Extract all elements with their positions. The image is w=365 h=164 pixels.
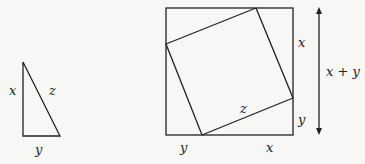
square-label-inner-z: z	[240, 102, 247, 115]
square-label-bottom-y: y	[180, 141, 187, 154]
arrow-head-up-icon	[316, 7, 322, 14]
arrow-head-down-icon	[316, 128, 322, 135]
dimension-label: x + y	[326, 65, 360, 78]
inner-tilted-square	[166, 8, 293, 135]
triangle-label-x: x	[9, 84, 16, 97]
outer-square	[166, 8, 293, 135]
square-label-right-y: y	[298, 113, 305, 126]
square-label-bottom-x: x	[266, 141, 273, 154]
square-label-right-x: x	[298, 36, 305, 49]
right-triangle	[23, 62, 60, 136]
triangle-label-y: y	[35, 143, 42, 156]
triangle-label-z: z	[49, 84, 56, 97]
